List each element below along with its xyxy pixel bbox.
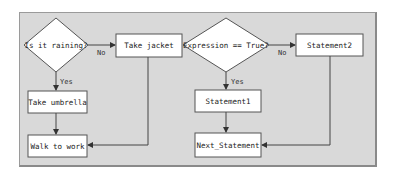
end-next-statement: Next_Statement <box>195 133 261 157</box>
decision-expression-true: Expression == True? <box>183 18 269 72</box>
end-walk-to-work: Walk to work <box>28 135 87 157</box>
edge-no-left: No <box>88 45 115 57</box>
right-flowchart: Expression == True? No Statement2 Yes St… <box>183 18 363 157</box>
action-label: Statement2 <box>307 41 352 50</box>
action-statement2: Statement2 <box>296 34 363 56</box>
edge-yes-right: Yes <box>226 72 244 89</box>
edge-no-label: No <box>278 49 286 57</box>
edge-yes-left: Yes <box>56 72 73 90</box>
decision-label: Is it raining? <box>24 41 87 50</box>
edge-statement2-to-next <box>262 56 330 145</box>
flowchart-canvas: Is it raining? No Take jacket Yes Take u… <box>0 0 393 177</box>
edge-jacket-to-walk <box>88 57 148 145</box>
action-take-umbrella: Take umbrella <box>28 91 87 113</box>
edge-no-right: No <box>269 45 295 57</box>
edge-yes-label: Yes <box>60 78 73 86</box>
action-label: Take umbrella <box>28 98 87 107</box>
end-label: Next_Statement <box>196 141 259 150</box>
decision-label: Expression == True? <box>183 41 269 50</box>
left-flowchart: Is it raining? No Take jacket Yes Take u… <box>24 18 182 157</box>
end-label: Walk to work <box>30 142 85 151</box>
action-label: Take jacket <box>124 41 174 50</box>
action-label: Statement1 <box>205 97 250 106</box>
edge-yes-label: Yes <box>231 78 244 86</box>
action-take-jacket: Take jacket <box>116 34 182 57</box>
edge-no-label: No <box>97 49 105 57</box>
action-statement1: Statement1 <box>195 90 261 112</box>
decision-is-it-raining: Is it raining? <box>24 18 88 72</box>
